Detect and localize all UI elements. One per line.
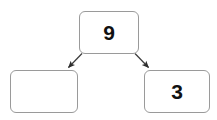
tree-node-right-child[interactable]: 3	[144, 70, 210, 113]
edge-root-to-left-child	[69, 54, 83, 68]
tree-node-left-child[interactable]	[10, 70, 78, 113]
tree-diagram: 9 3	[0, 0, 217, 120]
tree-node-right-child-label: 3	[171, 81, 183, 102]
tree-node-root[interactable]: 9	[79, 11, 139, 54]
edge-root-to-right-child	[135, 54, 149, 68]
tree-node-root-label: 9	[103, 22, 115, 43]
